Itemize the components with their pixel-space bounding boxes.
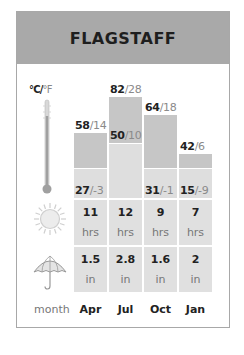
rain-cell-jan: 2in <box>179 247 212 292</box>
month-apr: Apr <box>74 303 107 316</box>
bar-low-jul <box>109 144 142 198</box>
rain-cell-apr: 1.5in <box>74 247 107 292</box>
umbrella-icon <box>32 252 68 292</box>
bar-high-apr <box>74 133 107 168</box>
rain-cell-jul: 2.8in <box>109 247 142 292</box>
high-label-jul: 82/28 <box>110 83 142 96</box>
month-axis-label: month <box>34 303 70 316</box>
low-label-jan: 15/-9 <box>180 184 209 197</box>
bar-high-oct <box>144 115 177 168</box>
month-jul: Jul <box>109 303 142 316</box>
high-label-jan: 42/6 <box>180 140 205 153</box>
month-jan: Jan <box>179 303 212 316</box>
sun-cell-oct: 9hrs <box>144 200 177 245</box>
month-oct: Oct <box>144 303 177 316</box>
thermometer-icon <box>40 98 54 196</box>
high-label-apr: 58/14 <box>75 119 107 132</box>
unit-primary: °C/ <box>29 84 43 95</box>
city-title: FLAGSTAFF <box>70 29 177 48</box>
high-label-oct: 64/18 <box>145 101 177 114</box>
unit-label: °C/°F <box>29 84 52 95</box>
low-label-apr: 27/-3 <box>75 184 104 197</box>
unit-secondary: °F <box>43 84 52 95</box>
rain-cell-oct: 1.6in <box>144 247 177 292</box>
bar-high-jan <box>179 154 212 168</box>
sun-cell-jan: 7hrs <box>179 200 212 245</box>
low-label-jul: 50/10 <box>110 129 142 142</box>
sun-cell-apr: 11hrs <box>74 200 107 245</box>
low-label-oct: 31/-1 <box>145 184 174 197</box>
sun-cell-jul: 12hrs <box>109 200 142 245</box>
header-bar: FLAGSTAFF <box>17 12 229 64</box>
sun-icon <box>33 202 67 236</box>
